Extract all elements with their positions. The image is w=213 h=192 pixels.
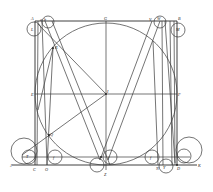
label-i: I [106,89,109,94]
label-o: O [45,167,48,172]
label-n: N [155,166,159,171]
label-w: W [157,16,161,21]
label-b: B [178,16,181,21]
label-l: L [30,27,34,32]
label-y: Y [163,165,166,170]
label-f: F [177,92,181,97]
geometric-diagram: A B C D E F G I J K L M O Q R V W Z Y T … [0,0,213,192]
label-r: R [54,45,58,50]
construction-lines-right [100,21,175,165]
label-f3: f [150,155,152,160]
label-m: M [175,27,180,32]
label-g: G [104,16,107,21]
label-d: D [176,166,180,171]
label-a-small: a [40,17,42,22]
label-k: K [197,163,201,168]
label-t: T [26,154,29,159]
points [48,47,178,166]
label-b-small: b [44,17,46,22]
label-e: E [30,92,34,97]
label-v: V [149,17,152,22]
point-labels: A B C D E F G I J K L M O Q R V W Z Y T … [10,16,201,177]
label-z: Z [104,172,107,177]
label-j: J [10,163,13,168]
label-f1: f [53,155,55,160]
construction-lines-left [38,21,110,165]
label-c: C [33,167,36,172]
label-a: A [30,16,34,21]
label-q: Q [50,132,53,137]
